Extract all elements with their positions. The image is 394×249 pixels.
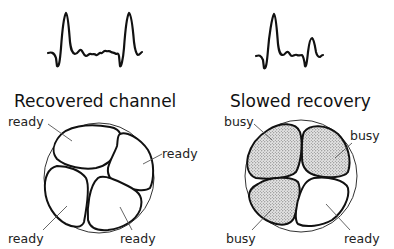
state-label: ready: [8, 231, 44, 246]
state-label: busy: [226, 231, 256, 246]
panel-slowed: Slowed recovery busy busy busy ready: [224, 14, 380, 246]
waveform-slowed: [256, 14, 323, 68]
state-label: busy: [224, 114, 254, 129]
subunit-bottom-left-slowed: [249, 178, 300, 225]
state-label: ready: [344, 231, 380, 246]
subunit-bottom-right-slowed: [296, 177, 349, 226]
state-label: ready: [8, 114, 44, 129]
diagram-canvas: Recovered channel ready ready ready read…: [0, 0, 394, 249]
state-label: ready: [162, 146, 198, 161]
subunit-bottom-left-recovered: [45, 166, 88, 227]
waveform-recovered: [48, 13, 142, 66]
state-label: ready: [120, 231, 156, 246]
panel-title-recovered: Recovered channel: [14, 91, 176, 111]
panel-title-slowed: Slowed recovery: [230, 91, 371, 111]
subunit-top-left-slowed: [247, 124, 301, 179]
panel-recovered: Recovered channel ready ready ready read…: [8, 13, 198, 246]
state-label: busy: [350, 128, 380, 143]
